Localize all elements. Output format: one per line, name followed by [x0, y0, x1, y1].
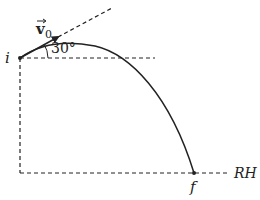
- initial-point-dot: [18, 56, 22, 60]
- reference-height-label: RH: [233, 165, 258, 181]
- diagram-svg: i f RH 30° v 0: [0, 0, 260, 200]
- trajectory-curve: [20, 43, 194, 173]
- velocity-label: v 0: [35, 19, 52, 41]
- angle-label: 30°: [51, 40, 76, 56]
- svg-text:0: 0: [45, 28, 52, 41]
- projectile-diagram: i f RH 30° v 0: [0, 0, 260, 200]
- final-point-label: f: [189, 178, 198, 196]
- final-point-dot: [192, 171, 196, 175]
- launch-direction-dashed-line: [58, 8, 112, 37]
- initial-point-label: i: [5, 49, 10, 67]
